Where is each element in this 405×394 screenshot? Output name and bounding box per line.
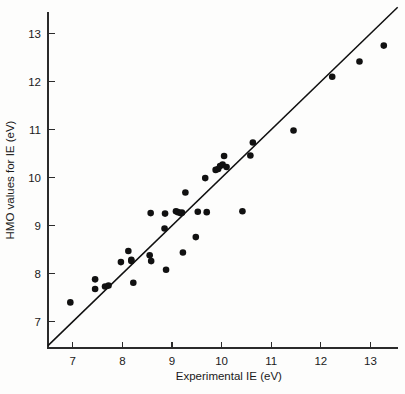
x-axis-tick-label: 11 [265,355,277,367]
data-point [290,127,297,134]
data-point [193,234,200,241]
y-axis-tick-label: 8 [35,268,41,280]
x-axis-title: Experimental IE (eV) [176,370,282,382]
data-point [380,42,387,49]
data-point [180,249,187,256]
data-point [67,299,74,306]
data-point [329,74,336,81]
data-point [239,208,246,215]
data-point [163,266,170,273]
y-axis-tick-label: 11 [29,124,41,136]
y-axis-tick-label: 12 [28,76,41,88]
plot-canvas: 7891011121378910111213Experimental IE (e… [0,0,405,394]
data-point [125,248,132,255]
data-point [247,152,254,159]
data-point [182,189,189,196]
data-point [202,175,209,182]
data-point [203,209,210,216]
data-point [128,256,135,263]
x-axis-tick-label: 8 [119,355,125,367]
data-point [118,259,125,266]
data-point [162,210,169,217]
data-point [92,276,99,283]
data-point [161,225,168,232]
y-axis-tick-label: 10 [28,172,41,184]
x-axis-tick-label: 10 [215,355,228,367]
data-point-group [67,42,387,305]
x-axis-tick-label: 7 [70,355,76,367]
scatter-plot-figure: 7891011121378910111213Experimental IE (e… [0,0,405,394]
data-point [221,153,228,160]
data-point [146,252,153,259]
data-point [223,164,230,171]
y-axis-tick-label: 7 [35,316,41,328]
data-point [92,286,99,293]
x-axis-tick-label: 9 [169,355,175,367]
data-point [148,258,155,265]
identity-reference-line [48,7,398,345]
data-point [250,139,257,146]
y-axis-tick-label: 13 [28,28,41,40]
y-axis-tick-label: 9 [35,220,41,232]
data-point [179,209,186,216]
data-point [147,210,154,217]
x-axis-tick-label: 12 [314,355,327,367]
y-axis-title: HMO values for IE (eV) [4,120,16,239]
x-axis-tick-label: 13 [364,355,377,367]
plot-axes [48,12,398,348]
data-point [356,58,363,65]
data-point [130,279,137,286]
data-point [105,282,112,289]
data-point [194,208,201,215]
